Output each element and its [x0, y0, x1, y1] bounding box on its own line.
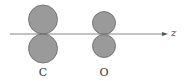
oxygen-upper-lobe: [93, 12, 116, 35]
axis-arrowhead-icon: [162, 32, 168, 36]
oxygen-label: O: [99, 67, 108, 78]
diagram-graphic: [0, 0, 186, 81]
oxygen-p-orbital: [93, 12, 116, 58]
carbon-label: C: [39, 67, 47, 78]
z-axis-label: z: [171, 28, 176, 38]
carbon-upper-lobe: [29, 5, 58, 34]
oxygen-lower-lobe: [93, 35, 116, 58]
orbital-diagram: z C O: [0, 0, 186, 81]
z-axis: [10, 32, 168, 36]
carbon-lower-lobe: [29, 34, 58, 63]
